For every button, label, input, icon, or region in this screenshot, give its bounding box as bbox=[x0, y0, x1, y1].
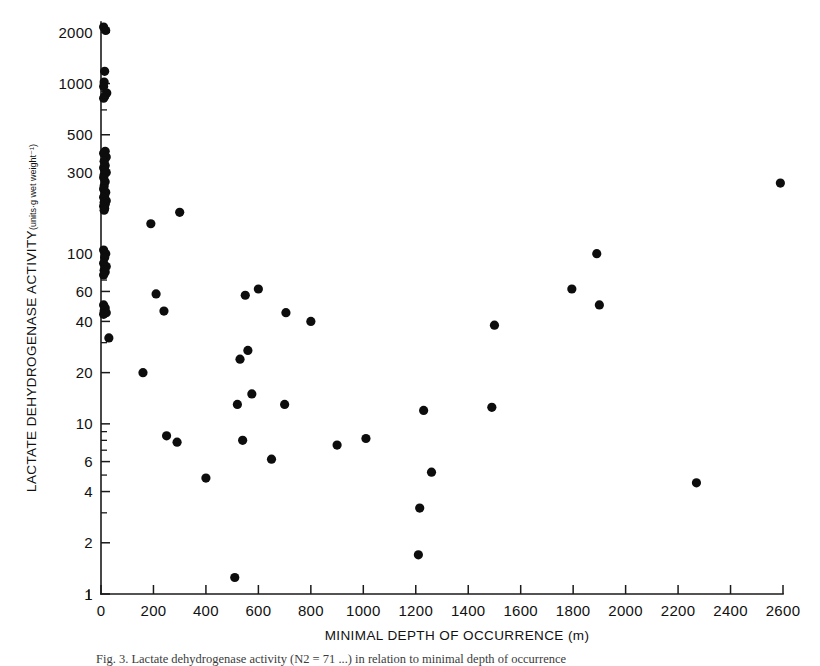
data-point bbox=[235, 355, 244, 364]
x-tick-label: 800 bbox=[298, 602, 324, 619]
data-point bbox=[361, 434, 370, 443]
y-tick-label: 6 bbox=[84, 453, 93, 470]
data-point bbox=[230, 573, 239, 582]
data-points-group bbox=[99, 22, 785, 582]
data-point bbox=[151, 289, 160, 298]
y-axis-tick-labels: 12461020406010030050010002000 bbox=[58, 24, 93, 603]
data-point bbox=[332, 441, 341, 450]
figure-caption: Fig. 3. Lactate dehydrogenase activity (… bbox=[96, 652, 736, 666]
figure-container: 12461020406010030050010002000 0200400600… bbox=[0, 0, 820, 666]
y-tick-label: 2 bbox=[84, 534, 93, 551]
data-point bbox=[159, 306, 168, 315]
data-point bbox=[415, 503, 424, 512]
x-tick-label: 1200 bbox=[398, 602, 433, 619]
data-point bbox=[487, 403, 496, 412]
y-axis-title: LACTATE DEHYDROGENASE ACTIVITY(units·g w… bbox=[24, 144, 39, 492]
data-point bbox=[595, 300, 604, 309]
y-tick-label: 300 bbox=[67, 164, 93, 181]
data-point bbox=[99, 94, 108, 103]
data-point bbox=[146, 219, 155, 228]
data-point bbox=[567, 284, 576, 293]
data-point bbox=[99, 310, 108, 319]
x-axis-tick-labels: 0200400600800100012001400160018002000220… bbox=[97, 602, 801, 619]
data-point bbox=[172, 438, 181, 447]
data-point bbox=[592, 249, 601, 258]
data-point bbox=[267, 455, 276, 464]
data-point bbox=[238, 436, 247, 445]
data-point bbox=[281, 308, 290, 317]
data-point bbox=[427, 468, 436, 477]
data-point bbox=[233, 400, 242, 409]
data-point bbox=[414, 550, 423, 559]
x-tick-label: 2400 bbox=[713, 602, 748, 619]
x-tick-label: 400 bbox=[193, 602, 219, 619]
data-point bbox=[247, 389, 256, 398]
data-point bbox=[104, 333, 113, 342]
x-tick-label: 600 bbox=[245, 602, 271, 619]
axis-titles-group: MINIMAL DEPTH OF OCCURRENCE (m)LACTATE D… bbox=[24, 144, 589, 643]
y-tick-label: 100 bbox=[67, 245, 93, 262]
data-point bbox=[175, 208, 184, 217]
data-point bbox=[490, 321, 499, 330]
y-tick-label: 500 bbox=[67, 126, 93, 143]
scatter-plot: 12461020406010030050010002000 0200400600… bbox=[0, 0, 820, 666]
y-tick-label: 4 bbox=[84, 483, 93, 500]
data-point bbox=[241, 291, 250, 300]
data-point bbox=[243, 346, 252, 355]
y-tick-label: 1000 bbox=[58, 75, 93, 92]
data-point bbox=[201, 473, 210, 482]
x-tick-label: 1000 bbox=[346, 602, 381, 619]
x-tick-label: 200 bbox=[140, 602, 166, 619]
y-tick-label: 60 bbox=[76, 283, 93, 300]
data-point bbox=[100, 67, 109, 76]
ticks-group bbox=[89, 32, 783, 599]
data-point bbox=[280, 400, 289, 409]
data-point bbox=[99, 270, 108, 279]
x-axis-title: MINIMAL DEPTH OF OCCURRENCE (m) bbox=[325, 628, 590, 643]
y-tick-label: 1 bbox=[84, 586, 93, 603]
data-point bbox=[101, 26, 110, 35]
y-tick-label: 20 bbox=[76, 364, 93, 381]
y-tick-label: 10 bbox=[76, 415, 93, 432]
x-tick-label: 0 bbox=[97, 602, 106, 619]
data-point bbox=[306, 317, 315, 326]
y-tick-label: 2000 bbox=[58, 24, 93, 41]
x-tick-label: 1800 bbox=[556, 602, 591, 619]
axes-group bbox=[101, 22, 783, 594]
x-tick-label: 2600 bbox=[766, 602, 801, 619]
data-point bbox=[776, 178, 785, 187]
y-tick-label: 40 bbox=[76, 313, 93, 330]
data-point bbox=[138, 368, 147, 377]
data-point bbox=[162, 431, 171, 440]
x-tick-label: 2000 bbox=[608, 602, 643, 619]
x-tick-label: 2200 bbox=[661, 602, 696, 619]
data-point bbox=[692, 478, 701, 487]
data-point bbox=[100, 206, 109, 215]
x-tick-label: 1600 bbox=[503, 602, 538, 619]
data-point bbox=[254, 284, 263, 293]
x-tick-label: 1400 bbox=[451, 602, 486, 619]
data-point bbox=[419, 406, 428, 415]
